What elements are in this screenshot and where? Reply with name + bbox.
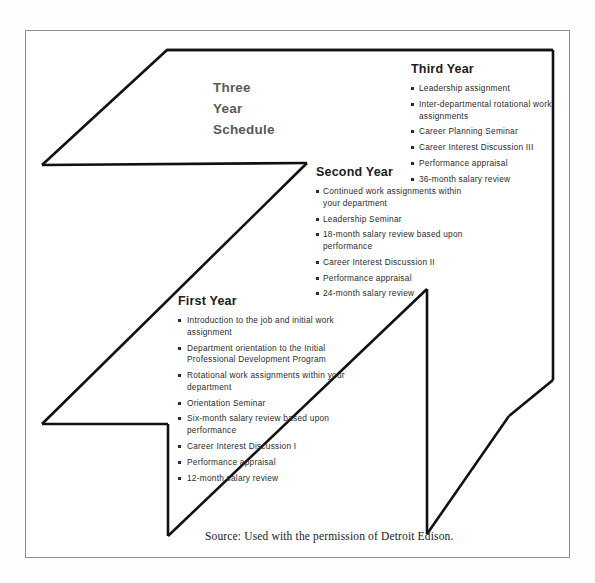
- list-item-label: Continued work assignments within your d…: [323, 186, 478, 210]
- list-item: Career Interest Discussion III: [411, 142, 571, 154]
- bullet-icon: [178, 374, 181, 377]
- list-item: Performance appraisal: [316, 273, 478, 285]
- list-item: Orientation Seminar: [178, 398, 358, 410]
- bullet-icon: [411, 103, 414, 106]
- bullet-icon: [178, 402, 181, 405]
- bullet-icon: [316, 233, 319, 236]
- bullet-icon: [316, 218, 319, 221]
- list-item: Department orientation to the Initial Pr…: [178, 343, 358, 367]
- list-item-label: 12-month salary review: [187, 473, 358, 485]
- first-year-heading: First Year: [178, 294, 358, 308]
- list-item-label: Orientation Seminar: [187, 398, 358, 410]
- figure-title: Three Year Schedule: [213, 78, 363, 141]
- list-item: Continued work assignments within your d…: [316, 186, 478, 210]
- list-item: Career Planning Seminar: [411, 126, 571, 138]
- bullet-icon: [316, 190, 319, 193]
- list-item-label: Inter-departmental rotational work assig…: [419, 99, 571, 123]
- list-item-label: Career Interest Discussion II: [323, 257, 478, 269]
- bullet-icon: [178, 477, 181, 480]
- list-item-label: 18-month salary review based upon perfor…: [323, 229, 478, 253]
- bullet-icon: [316, 277, 319, 280]
- bullet-icon: [411, 87, 414, 90]
- third-year-heading: Third Year: [411, 62, 571, 76]
- bullet-icon: [178, 417, 181, 420]
- list-item-label: Rotational work assignments within your …: [187, 370, 358, 394]
- list-item: Career Interest Discussion I: [178, 441, 358, 453]
- list-item: Performance appraisal: [178, 457, 358, 469]
- list-item: Introduction to the job and initial work…: [178, 315, 358, 339]
- first-year-list: Introduction to the job and initial work…: [178, 315, 358, 484]
- bullet-icon: [178, 347, 181, 350]
- list-item-label: Career Interest Discussion I: [187, 441, 358, 453]
- bullet-icon: [316, 261, 319, 264]
- figure-page: Three Year Schedule Third Year Leadershi…: [0, 0, 595, 583]
- title-line-2: Year: [213, 99, 363, 120]
- bullet-icon: [178, 445, 181, 448]
- bullet-icon: [411, 146, 414, 149]
- section-second-year: Second Year Continued work assignments w…: [316, 165, 478, 304]
- list-item: Leadership assignment: [411, 83, 571, 95]
- list-item: Leadership Seminar: [316, 214, 478, 226]
- title-line-1: Three: [213, 78, 363, 99]
- title-line-3: Schedule: [213, 120, 363, 141]
- section-first-year: First Year Introduction to the job and i…: [178, 294, 358, 488]
- list-item: Career Interest Discussion II: [316, 257, 478, 269]
- bullet-icon: [411, 130, 414, 133]
- list-item: 12-month salary review: [178, 473, 358, 485]
- list-item-label: Introduction to the job and initial work…: [187, 315, 358, 339]
- list-item-label: Career Interest Discussion III: [419, 142, 571, 154]
- source-caption: Source: Used with the permission of Detr…: [205, 530, 453, 542]
- list-item-label: Performance appraisal: [323, 273, 478, 285]
- list-item: 18-month salary review based upon perfor…: [316, 229, 478, 253]
- list-item-label: Performance appraisal: [187, 457, 358, 469]
- bullet-icon: [178, 461, 181, 464]
- second-year-list: Continued work assignments within your d…: [316, 186, 478, 300]
- list-item-label: Career Planning Seminar: [419, 126, 571, 138]
- list-item: Six-month salary review based upon perfo…: [178, 413, 358, 437]
- bullet-icon: [178, 319, 181, 322]
- list-item-label: Leadership Seminar: [323, 214, 478, 226]
- list-item-label: Leadership assignment: [419, 83, 571, 95]
- second-year-heading: Second Year: [316, 165, 478, 179]
- list-item-label: Six-month salary review based upon perfo…: [187, 413, 358, 437]
- list-item: Rotational work assignments within your …: [178, 370, 358, 394]
- list-item-label: Department orientation to the Initial Pr…: [187, 343, 358, 367]
- list-item: Inter-departmental rotational work assig…: [411, 99, 571, 123]
